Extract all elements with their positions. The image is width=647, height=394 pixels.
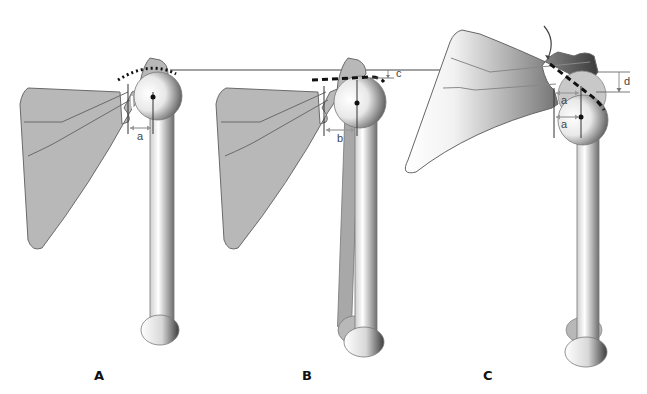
humerus-condyle-a: [141, 315, 179, 345]
measure-label-a-upper: a: [561, 94, 568, 106]
measure-label-d: d: [624, 75, 630, 87]
measure-label-a: a: [137, 130, 144, 142]
humerus-condyle-b: [344, 327, 384, 357]
panel-a: a: [20, 58, 182, 345]
humerus-shaft-c: [577, 120, 599, 350]
panel-c: d a a: [405, 26, 630, 367]
humerus-condyle-c: [565, 337, 607, 367]
humerus-shaft-b: [355, 108, 377, 332]
measure-label-b: b: [337, 132, 343, 144]
humeral-head-b: [334, 76, 386, 128]
measure-label-c: c: [396, 67, 402, 79]
panel-label-a: A: [94, 368, 104, 383]
head-center-marker-a: [151, 95, 156, 100]
panel-b: c b: [216, 58, 402, 357]
head-center-marker-c: [579, 115, 584, 120]
panel-label-c: C: [483, 368, 493, 383]
panel-label-b: B: [302, 368, 312, 383]
humeral-head-a: [134, 72, 182, 120]
head-center-marker-b: [355, 101, 360, 106]
humerus-shaft-a: [150, 110, 174, 320]
measure-label-a-lower: a: [561, 118, 568, 130]
rotation-arrow-icon: [544, 26, 551, 58]
shoulder-diagram: a c b: [0, 0, 647, 394]
